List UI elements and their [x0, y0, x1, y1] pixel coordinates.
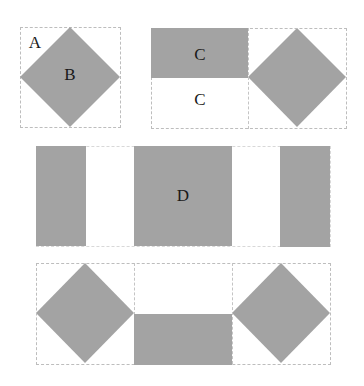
panel-4-grey-bottom-half: [134, 314, 232, 365]
panel-3-grey-right: [280, 146, 330, 247]
label-c-top: C: [194, 46, 205, 63]
label-c-bottom: C: [194, 91, 205, 108]
panel-4-divider-right: [232, 263, 233, 364]
label-a: A: [29, 34, 41, 51]
panel-2-divider: [248, 28, 249, 129]
label-b: B: [64, 66, 75, 83]
label-d: D: [177, 187, 189, 204]
panel-3-grey-left: [36, 146, 86, 246]
